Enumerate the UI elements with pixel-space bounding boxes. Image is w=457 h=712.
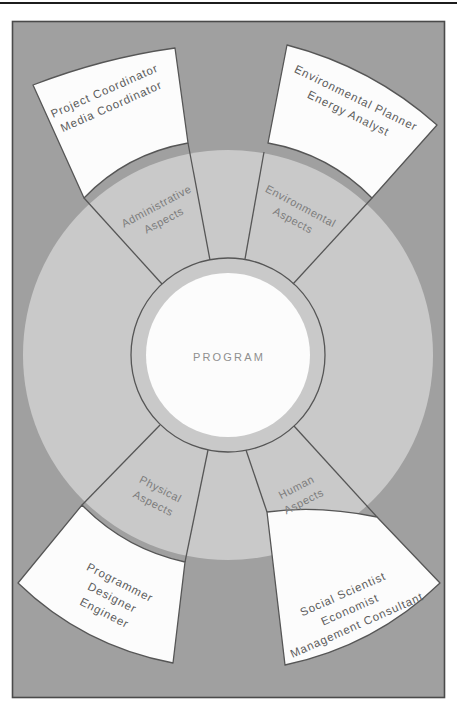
figure-page: PROGRAM Administrative Aspects Environme… bbox=[0, 0, 457, 712]
program-label: PROGRAM bbox=[193, 350, 265, 365]
program-label-text: PROGRAM bbox=[193, 350, 265, 365]
